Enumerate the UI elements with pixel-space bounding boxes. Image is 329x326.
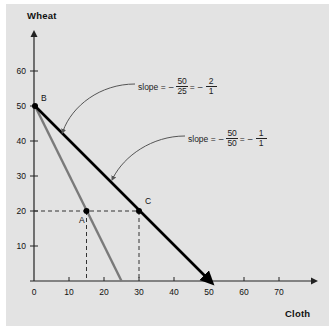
annotation-slope-shallow-minus2: – bbox=[247, 134, 254, 144]
annotation-slope-steep-fraction2: 2 1 bbox=[206, 77, 217, 97]
point-label-b: B bbox=[41, 93, 47, 103]
x-tick-label-0: 0 bbox=[25, 287, 43, 297]
y-tick-label-10: 10 bbox=[10, 241, 26, 251]
x-tick-label-50: 50 bbox=[200, 287, 218, 297]
x-tick-label-30: 30 bbox=[130, 287, 148, 297]
annotation-slope-steep-equals: = bbox=[190, 82, 195, 92]
annotation-slope-shallow-equals: = bbox=[240, 134, 245, 144]
annotation-slope-shallow-fraction1: 50 50 bbox=[226, 129, 237, 149]
y-tick-label-40: 40 bbox=[10, 136, 26, 146]
y-axis-title: Wheat bbox=[27, 10, 57, 21]
annotation-slope-shallow: slope = – 50 50 = – 1 1 bbox=[188, 129, 267, 149]
annotation-slope-steep-minus1: – bbox=[168, 82, 175, 92]
annotation-slope-shallow-minus1: – bbox=[218, 134, 225, 144]
annotation-slope-steep-numerator2: 2 bbox=[208, 77, 215, 86]
series-shallow-line bbox=[35, 106, 206, 277]
annotation-slope-steep-fraction1: 50 25 bbox=[176, 77, 187, 97]
point-label-c: C bbox=[145, 196, 151, 206]
x-tick-label-20: 20 bbox=[95, 287, 113, 297]
marker-point-a bbox=[84, 208, 90, 214]
marker-point-c bbox=[136, 208, 142, 214]
series-steep-line bbox=[35, 106, 122, 281]
x-tick-label-60: 60 bbox=[235, 287, 253, 297]
y-tick-label-30: 30 bbox=[10, 171, 26, 181]
annotation-slope-steep-prefix: slope = bbox=[138, 82, 166, 92]
annotation-slope-shallow-fraction2: 1 1 bbox=[256, 129, 267, 149]
point-label-a: A bbox=[79, 215, 85, 225]
annotation-slope-steep-denominator1: 25 bbox=[176, 87, 187, 96]
annotation-slope-steep: slope = – 50 25 = – 2 1 bbox=[138, 77, 217, 97]
chart-plot-area bbox=[0, 0, 329, 326]
annotation-slope-steep-denominator2: 1 bbox=[208, 87, 215, 96]
annotation-slope-shallow-denominator2: 1 bbox=[258, 139, 265, 148]
annotation-slope-shallow-numerator1: 50 bbox=[226, 129, 237, 138]
annotation-arrow-shallow bbox=[113, 136, 185, 178]
figure-container: Wheat Cloth 60 50 40 30 20 10 0 10 20 30… bbox=[0, 0, 329, 326]
x-tick-label-10: 10 bbox=[60, 287, 78, 297]
annotation-slope-shallow-numerator2: 1 bbox=[258, 129, 265, 138]
annotation-slope-steep-minus2: – bbox=[197, 82, 204, 92]
y-tick-label-20: 20 bbox=[10, 206, 26, 216]
marker-point-b bbox=[32, 103, 38, 109]
annotation-slope-shallow-prefix: slope = bbox=[188, 134, 216, 144]
annotation-slope-shallow-denominator1: 50 bbox=[226, 139, 237, 148]
annotation-arrow-steep bbox=[63, 84, 135, 131]
y-tick-label-60: 60 bbox=[10, 66, 26, 76]
x-tick-label-40: 40 bbox=[165, 287, 183, 297]
x-axis-title: Cloth bbox=[285, 308, 310, 319]
guide-lines bbox=[34, 211, 139, 281]
annotation-slope-steep-numerator1: 50 bbox=[176, 77, 187, 86]
y-tick-label-50: 50 bbox=[10, 101, 26, 111]
x-tick-label-70: 70 bbox=[270, 287, 288, 297]
